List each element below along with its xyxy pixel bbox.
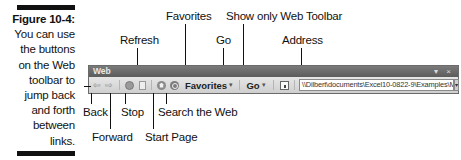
callout-line-favorites bbox=[185, 24, 186, 65]
toolbar-titlebar[interactable]: Web ▾ × bbox=[89, 66, 458, 77]
toolbar-window-controls[interactable]: ▾ × bbox=[434, 66, 454, 77]
refresh-button[interactable] bbox=[137, 79, 147, 91]
callout-favorites: Favorites bbox=[166, 10, 212, 23]
caption-line: between bbox=[0, 118, 75, 133]
go-label: Go bbox=[246, 80, 259, 91]
toolbar-title: Web bbox=[93, 66, 111, 77]
caption-line: toolbar to bbox=[0, 73, 75, 88]
stop-button[interactable] bbox=[124, 79, 135, 91]
figure-caption: Figure 10-4: You can use the buttons on … bbox=[0, 12, 75, 149]
forward-button[interactable]: ⇨ bbox=[104, 79, 114, 91]
callout-hline-back bbox=[84, 86, 91, 87]
favorites-button[interactable]: Favorites ▾ bbox=[183, 79, 235, 91]
callout-forward: Forward bbox=[92, 131, 133, 144]
go-button[interactable]: Go ▾ bbox=[243, 79, 269, 91]
start-page-button[interactable] bbox=[156, 79, 167, 91]
favorites-label: Favorites bbox=[185, 80, 227, 91]
caption-bottom-rule bbox=[17, 151, 75, 156]
caption-line: and forth bbox=[0, 103, 75, 118]
separator bbox=[119, 80, 120, 90]
callout-refresh: Refresh bbox=[120, 34, 159, 47]
callout-search-the-web: Search the Web bbox=[158, 106, 237, 119]
separator bbox=[294, 80, 295, 90]
toolbar-button-row: ⇦ ⇨ Favorites ▾ Go ▾ bbox=[89, 77, 458, 93]
callout-line-start-page bbox=[153, 93, 154, 129]
figure-label: Figure 10-4: bbox=[0, 12, 75, 27]
address-dropdown-button[interactable]: ▾ bbox=[454, 79, 459, 91]
separator bbox=[151, 80, 152, 90]
separator bbox=[273, 80, 274, 90]
callout-stop: Stop bbox=[121, 106, 144, 119]
caption-line: You can use bbox=[0, 27, 75, 42]
callout-line-address bbox=[301, 48, 302, 65]
back-button[interactable]: ⇦ bbox=[92, 79, 102, 91]
home-icon bbox=[157, 81, 166, 90]
callout-line-forward bbox=[110, 93, 111, 129]
back-arrow-icon: ⇦ bbox=[93, 80, 101, 90]
caption-line: links. bbox=[0, 134, 75, 149]
refresh-icon bbox=[139, 81, 146, 90]
callout-line-refresh bbox=[137, 48, 138, 65]
separator bbox=[239, 80, 240, 90]
callout-back: Back bbox=[83, 106, 108, 119]
show-only-web-toolbar-icon bbox=[280, 81, 289, 90]
callout-start-page: Start Page bbox=[145, 131, 197, 144]
callout-go: Go bbox=[216, 34, 231, 47]
callout-show-only-web-toolbar: Show only Web Toolbar bbox=[226, 10, 342, 23]
search-icon bbox=[170, 81, 179, 90]
callout-line-go bbox=[223, 48, 224, 65]
caption-top-rule bbox=[17, 5, 75, 10]
chevron-down-icon: ▾ bbox=[229, 81, 233, 89]
caption-line: jump back bbox=[0, 88, 75, 103]
callout-line-search-the-web bbox=[166, 93, 167, 104]
stop-icon bbox=[125, 81, 134, 90]
forward-arrow-icon: ⇨ bbox=[105, 80, 113, 90]
caption-line: the buttons bbox=[0, 42, 75, 57]
caption-line: on the Web bbox=[0, 58, 75, 73]
address-input[interactable]: \\Dilbert\documents\Excel10-0822-9\Examp… bbox=[299, 79, 454, 91]
show-only-web-toolbar-button[interactable] bbox=[278, 79, 290, 91]
search-the-web-button[interactable] bbox=[169, 79, 180, 91]
callout-line-back bbox=[91, 93, 92, 104]
web-toolbar: Web ▾ × ⇦ ⇨ Favorites ▾ Go ▾ bbox=[88, 65, 459, 94]
callout-line-stop bbox=[125, 93, 126, 104]
chevron-down-icon: ▾ bbox=[262, 81, 266, 89]
callout-line-show-only-web-toolbar bbox=[243, 24, 244, 65]
callout-address: Address bbox=[282, 34, 323, 47]
